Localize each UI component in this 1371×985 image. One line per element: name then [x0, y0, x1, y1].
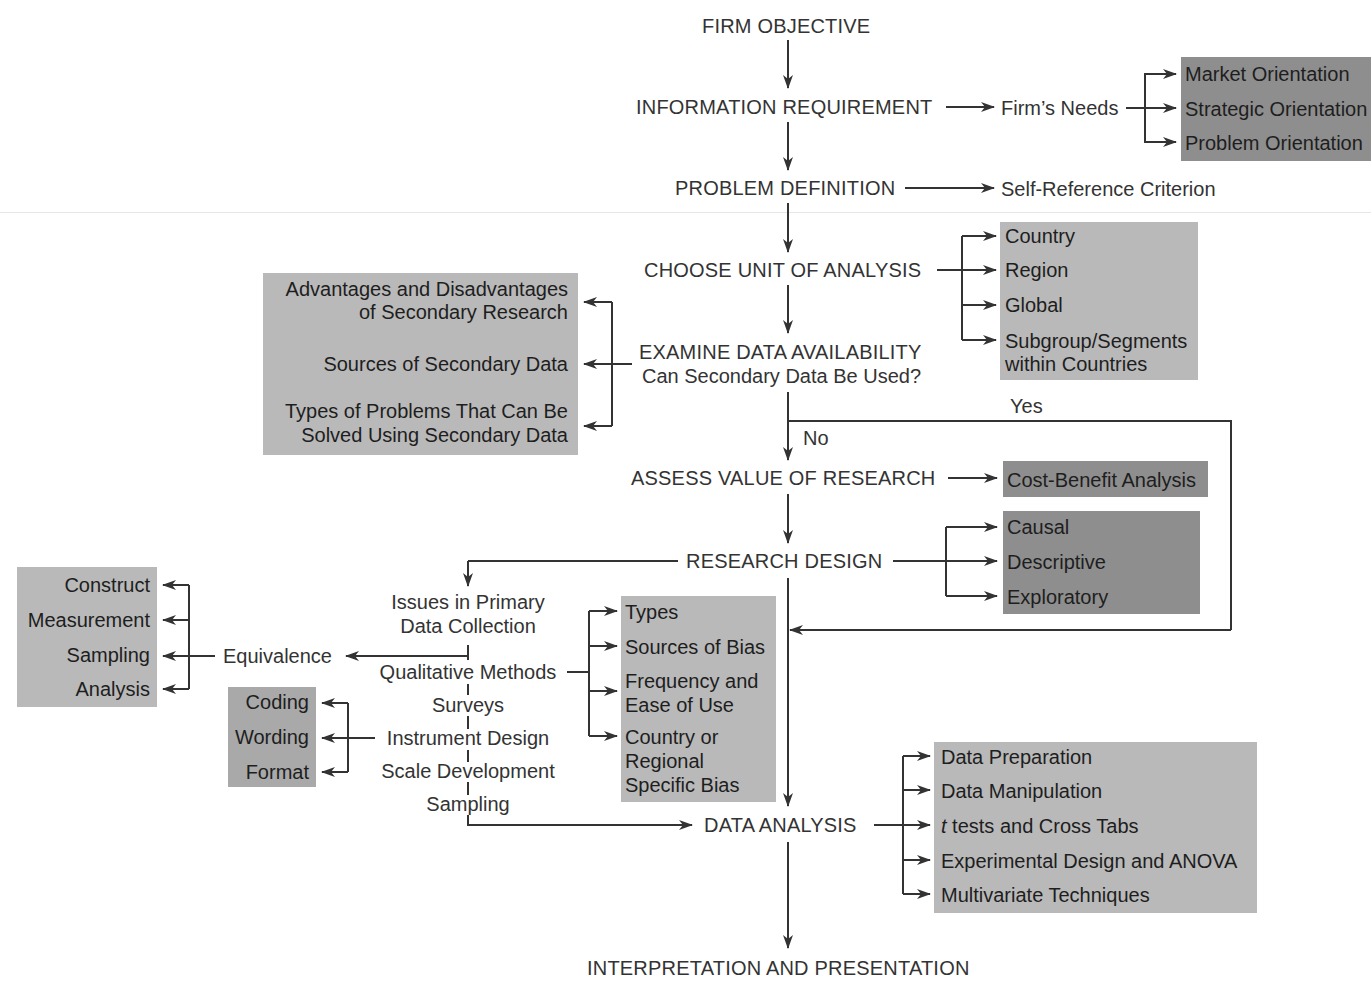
design-descriptive: Descriptive — [1007, 550, 1106, 574]
choose-unit-of-analysis-node: CHOOSE UNIT OF ANALYSIS — [644, 258, 921, 282]
no-label: No — [803, 426, 829, 450]
secondary-problem-types-line2: Solved Using Secondary Data — [301, 423, 568, 447]
unit-subgroup-line2: within Countries — [1005, 352, 1147, 376]
da-t-tests-rest: tests and Cross Tabs — [947, 815, 1139, 837]
assess-value-node: ASSESS VALUE OF RESEARCH — [631, 466, 936, 490]
problem-definition-node: PROBLEM DEFINITION — [675, 176, 895, 200]
da-t-tests: t tests and Cross Tabs — [941, 814, 1139, 838]
primary-issues-title: Issues in Primary — [368, 590, 568, 614]
qual-frequency: Frequency and — [625, 669, 758, 693]
da-multivariate: Multivariate Techniques — [941, 883, 1150, 907]
qual-sources-of-bias: Sources of Bias — [625, 635, 765, 659]
strategic-orientation: Strategic Orientation — [1185, 97, 1367, 121]
connector-lines — [0, 0, 1371, 985]
equivalence-measurement: Measurement — [28, 608, 150, 632]
qual-frequency-line2: Ease of Use — [625, 693, 734, 717]
firms-needs-label: Firm’s Needs — [1001, 96, 1118, 120]
surveys: Surveys — [368, 693, 568, 717]
firm-objective-node: FIRM OBJECTIVE — [702, 14, 870, 38]
self-reference-criterion: Self-Reference Criterion — [1001, 177, 1216, 201]
scale-development: Scale Development — [368, 759, 568, 783]
instrument-coding: Coding — [246, 690, 309, 714]
examine-data-subtitle: Can Secondary Data Be Used? — [642, 364, 921, 388]
design-exploratory: Exploratory — [1007, 585, 1108, 609]
market-orientation: Market Orientation — [1185, 62, 1350, 86]
problem-orientation: Problem Orientation — [1185, 131, 1363, 155]
qual-country-bias: Country or — [625, 725, 718, 749]
research-design-node: RESEARCH DESIGN — [686, 549, 882, 573]
data-analysis-node: DATA ANALYSIS — [704, 813, 857, 837]
secondary-advantages-line2: of Secondary Research — [359, 300, 568, 324]
instrument-design: Instrument Design — [368, 726, 568, 750]
yes-label: Yes — [1010, 394, 1043, 418]
da-data-manipulation: Data Manipulation — [941, 779, 1102, 803]
primary-issues-title-line2: Data Collection — [368, 614, 568, 638]
unit-subgroup: Subgroup/Segments — [1005, 329, 1187, 353]
qual-types: Types — [625, 600, 678, 624]
secondary-advantages: Advantages and Disadvantages — [286, 277, 568, 301]
secondary-problem-types: Types of Problems That Can Be — [285, 399, 568, 423]
unit-country: Country — [1005, 224, 1075, 248]
qual-country-bias-line2: Regional — [625, 749, 704, 773]
equivalence-label: Equivalence — [223, 644, 332, 668]
instrument-wording: Wording — [235, 725, 309, 749]
da-experimental-design: Experimental Design and ANOVA — [941, 849, 1237, 873]
cost-benefit-analysis: Cost-Benefit Analysis — [1007, 468, 1196, 492]
equivalence-analysis: Analysis — [76, 677, 150, 701]
design-causal: Causal — [1007, 515, 1069, 539]
interpretation-node: INTERPRETATION AND PRESENTATION — [587, 956, 970, 980]
secondary-sources: Sources of Secondary Data — [323, 352, 568, 376]
da-data-preparation: Data Preparation — [941, 745, 1092, 769]
information-requirement-node: INFORMATION REQUIREMENT — [636, 95, 932, 119]
qualitative-methods: Qualitative Methods — [368, 660, 568, 684]
equivalence-construct: Construct — [64, 573, 150, 597]
instrument-format: Format — [246, 760, 309, 784]
unit-global: Global — [1005, 293, 1063, 317]
unit-region: Region — [1005, 258, 1068, 282]
sampling-primary: Sampling — [368, 792, 568, 816]
examine-data-availability-node: EXAMINE DATA AVAILABILITY — [639, 340, 922, 364]
qual-country-bias-line3: Specific Bias — [625, 773, 740, 797]
equivalence-sampling: Sampling — [67, 643, 150, 667]
